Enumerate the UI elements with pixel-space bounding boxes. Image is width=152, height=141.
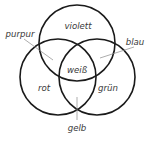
label-gruen: grün [98, 83, 118, 93]
label-rot: rot [38, 83, 51, 93]
label-purpur: purpur [5, 29, 35, 39]
label-gelb: gelb [68, 123, 87, 133]
label-violett: violett [64, 21, 92, 31]
label-weiss: weiß [67, 65, 88, 75]
label-blau: blau [126, 37, 145, 47]
color-venn-diagram: violett purpur blau weiß rot grün gelb [0, 0, 152, 141]
circle-left [20, 39, 96, 115]
